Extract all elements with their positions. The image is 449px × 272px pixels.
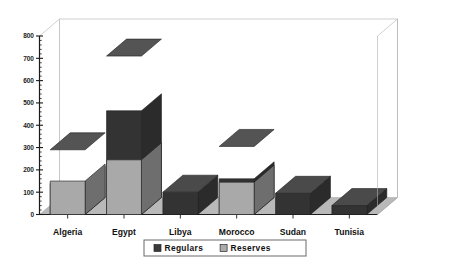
category-label: Sudan [280,227,306,237]
legend-label[interactable]: Regulars [165,243,204,253]
category-labels: AlgeriaEgyptLibyaMoroccoSudanTunisia [53,227,364,237]
y-axis-tick-label: 100 [23,189,34,196]
legend-swatch [154,245,161,252]
category-label: Algeria [53,227,82,237]
category-label: Libya [169,227,192,237]
y-axis-tick-label: 200 [23,166,34,173]
y-axis-tick-label: 0 [30,211,34,218]
category-label: Morocco [219,227,255,237]
bar-segment-front [276,193,311,214]
category-label: Tunisia [335,227,365,237]
chart-legend: RegularsReserves [144,240,306,256]
y-axis-tick-label: 800 [23,32,34,39]
bar-segment-front [50,181,85,214]
y-axis-tick-label: 600 [23,77,34,84]
legend-swatch [220,245,227,252]
category-label: Egypt [112,227,136,237]
chart-figure: 0100200300400500600700800AlgeriaEgyptLib… [0,0,449,272]
y-axis-tick-label: 300 [23,144,34,151]
bar-segment-front [163,192,198,214]
bar-segment-front [107,160,142,215]
bar-segment-front [332,206,367,215]
legend-label[interactable]: Reserves [231,243,271,253]
bar-segment-front [219,182,254,214]
y-axis-tick-label: 500 [23,99,34,106]
y-axis-tick-label: 400 [23,122,34,129]
bar-chart-3d: 0100200300400500600700800AlgeriaEgyptLib… [0,0,449,272]
y-axis-tick-label: 700 [23,55,34,62]
